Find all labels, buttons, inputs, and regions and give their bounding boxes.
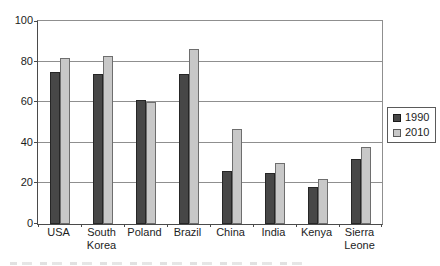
y-tick-40 [34,142,38,143]
bar-1990-kenya [308,187,318,224]
x-axis-label-brazil: Brazil [166,226,209,252]
legend: 19902010 [387,107,436,143]
bar-2010-sierra-leone [361,147,371,224]
y-tick-20 [34,182,38,183]
bar-group-4 [210,21,253,224]
y-tick-100 [34,21,38,22]
bars-row [38,21,382,224]
bar-2010-kenya [318,179,328,224]
bar-2010-usa [60,58,70,224]
legend-swatch-1990 [393,114,401,122]
plot-area [37,20,383,225]
x-axis-labels: USASouth KoreaPolandBrazilChinaIndiaKeny… [37,226,381,252]
bar-group-2 [124,21,167,224]
bar-group-7 [339,21,382,224]
bar-chart-figure: 020406080100 USASouth KoreaPolandBrazilC… [0,0,440,266]
y-axis-label-100: 100 [7,14,33,26]
bar-1990-south-korea [93,74,103,224]
bar-1990-brazil [179,74,189,224]
bar-group-6 [296,21,339,224]
bar-2010-poland [146,102,156,224]
legend-swatch-2010 [393,129,401,137]
x-axis-label-china: China [209,226,252,252]
bar-2010-south-korea [103,56,113,224]
x-axis-label-usa: USA [37,226,80,252]
bar-group-0 [38,21,81,224]
x-axis-label-kenya: Kenya [295,226,338,252]
y-tick-80 [34,61,38,62]
bar-group-5 [253,21,296,224]
x-tick-8 [381,224,382,227]
bar-1990-china [222,171,232,224]
x-axis-label-poland: Poland [123,226,166,252]
bar-2010-china [232,129,242,224]
y-axis-label-40: 40 [7,136,33,148]
bar-group-1 [81,21,124,224]
bar-1990-india [265,173,275,224]
legend-item-1990: 1990 [393,112,429,123]
y-axis-label-20: 20 [7,176,33,188]
y-axis-label-60: 60 [7,95,33,107]
x-axis-label-india: India [252,226,295,252]
bar-2010-india [275,163,285,224]
y-axis-label-0: 0 [7,217,33,229]
bar-1990-usa [50,72,60,224]
cropped-caption-remnant [10,262,310,265]
legend-label-2010: 2010 [405,127,429,138]
x-axis-label-south-korea: South Korea [80,226,123,252]
x-axis-label-sierra-leone: Sierra Leone [338,226,381,252]
legend-label-1990: 1990 [405,112,429,123]
y-axis-label-80: 80 [7,55,33,67]
bar-1990-sierra-leone [351,159,361,224]
bar-2010-brazil [189,49,199,224]
bar-1990-poland [136,100,146,224]
legend-item-2010: 2010 [393,127,429,138]
y-tick-60 [34,101,38,102]
bar-group-3 [167,21,210,224]
